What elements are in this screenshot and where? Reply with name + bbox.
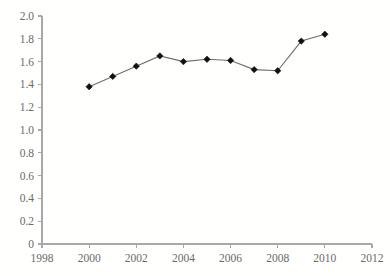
y-tick-label: 0.8 <box>20 147 35 159</box>
y-tick-label: 1.2 <box>20 101 35 113</box>
data-series <box>86 31 328 90</box>
data-point-marker <box>180 58 186 64</box>
x-tick-label: 2004 <box>172 252 195 264</box>
line-chart: 00.20.40.60.81.01.21.41.61.82.0 19982000… <box>0 0 390 276</box>
y-tick-label: 1.4 <box>20 78 35 90</box>
y-tick-label: 0 <box>28 238 34 250</box>
y-tick-label: 0.4 <box>20 192 35 204</box>
x-tick-label: 2006 <box>219 252 242 264</box>
data-point-marker <box>86 83 92 89</box>
data-point-marker <box>110 73 116 79</box>
x-tick-label: 2002 <box>125 252 148 264</box>
y-tick-label: 1.6 <box>20 56 35 68</box>
x-tick-label: 2000 <box>78 252 101 264</box>
y-tick-label: 0.2 <box>20 215 35 227</box>
y-axis: 00.20.40.60.81.01.21.41.61.82.0 <box>20 10 42 250</box>
x-tick-label: 2008 <box>266 252 289 264</box>
y-tick-label: 1.0 <box>20 124 35 136</box>
x-tick-label: 2010 <box>313 252 336 264</box>
data-point-marker <box>133 63 139 69</box>
data-point-marker <box>251 66 257 72</box>
x-tick-label: 1998 <box>31 252 54 264</box>
data-point-marker <box>322 31 328 37</box>
y-tick-label: 0.6 <box>20 170 35 182</box>
data-point-marker <box>227 57 233 63</box>
x-axis: 19982000200220042006200820102012 <box>31 244 384 264</box>
data-point-marker <box>204 56 210 62</box>
y-tick-label: 2.0 <box>20 10 35 22</box>
data-point-marker <box>157 53 163 59</box>
chart-plot-area: 00.20.40.60.81.01.21.41.61.82.0 19982000… <box>0 0 390 276</box>
y-tick-label: 1.8 <box>20 33 35 45</box>
x-tick-label: 2012 <box>361 252 384 264</box>
